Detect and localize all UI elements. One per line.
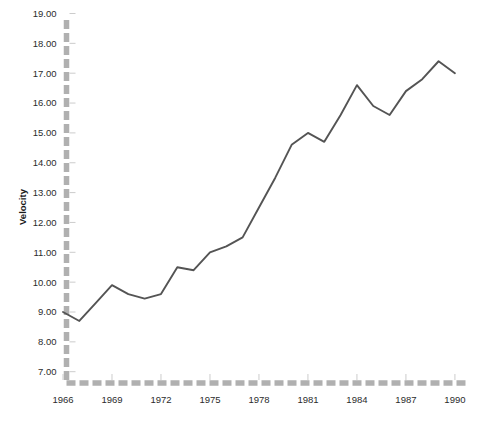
chart-background bbox=[0, 0, 493, 425]
x-axis-tick-label: 1987 bbox=[395, 394, 416, 405]
y-axis-tick-label: 17.00 bbox=[33, 68, 57, 79]
x-axis-tick-label: 1975 bbox=[199, 394, 220, 405]
y-axis-tick-label: 11.00 bbox=[33, 247, 56, 258]
y-axis-tick-label: 15.00 bbox=[33, 127, 57, 138]
x-axis-tick-label: 1978 bbox=[248, 394, 269, 405]
x-axis-tick-label: 1972 bbox=[150, 394, 171, 405]
x-axis-tick-labels: 196619691972197519781981198419871990 bbox=[52, 394, 465, 405]
y-axis-tick-label: 14.00 bbox=[33, 157, 57, 168]
y-axis-tick-label: 12.00 bbox=[33, 217, 57, 228]
x-axis-tick-label: 1984 bbox=[346, 394, 367, 405]
y-axis-tick-label: 8.00 bbox=[38, 336, 57, 347]
y-axis-tick-label: 9.00 bbox=[38, 306, 57, 317]
y-axis-tick-label: 13.00 bbox=[33, 187, 57, 198]
y-axis-tick-label: 7.00 bbox=[38, 366, 57, 377]
line-chart: 7.008.009.0010.0011.0012.0013.0014.0015.… bbox=[0, 0, 493, 425]
y-axis-tick-label: 19.00 bbox=[33, 8, 57, 19]
y-axis-tick-label: 10.00 bbox=[33, 277, 57, 288]
x-axis-tick-label: 1981 bbox=[297, 394, 318, 405]
y-axis-tick-label: 18.00 bbox=[33, 38, 57, 49]
axis-title-group: Velocity bbox=[17, 188, 28, 225]
chart-container: 7.008.009.0010.0011.0012.0013.0014.0015.… bbox=[0, 0, 493, 425]
x-axis-tick-label: 1966 bbox=[52, 394, 73, 405]
x-axis-tick-label: 1969 bbox=[101, 394, 122, 405]
x-axis-tick-label: 1990 bbox=[444, 394, 465, 405]
y-axis-title: Velocity bbox=[17, 188, 28, 225]
y-axis-tick-label: 16.00 bbox=[33, 97, 57, 108]
